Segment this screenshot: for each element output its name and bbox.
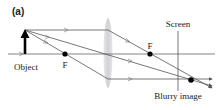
image-point (188, 77, 194, 83)
screen-label: Screen (166, 19, 191, 29)
focal-point-right (147, 51, 152, 56)
object-label: Object (14, 62, 38, 72)
focal-point-left (62, 51, 67, 56)
lens-ray-diagram: (a) Screen Object F F Blurry image (0, 0, 221, 110)
blurry-image-label: Blurry image (154, 91, 202, 101)
focal-label-right: F (147, 41, 152, 51)
panel-label: (a) (12, 6, 24, 17)
focal-label-left: F (62, 60, 67, 70)
ray-focal (25, 30, 212, 79)
ray-central (25, 30, 212, 86)
